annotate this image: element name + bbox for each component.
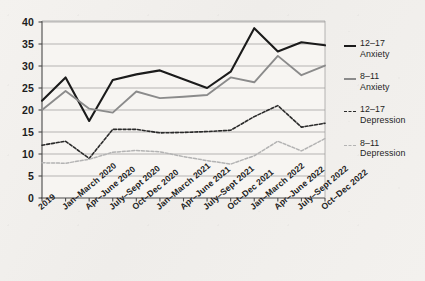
legend-item-1[interactable]: 8–11Anxiety (344, 71, 425, 92)
legend-label-age: 12–17 (360, 38, 385, 48)
legend-label: 12–17Depression (360, 104, 406, 125)
y-tick-label-10: 10 (8, 148, 34, 160)
legend-label-age: 8–11 (360, 71, 379, 81)
chart-legend: 12–17Anxiety8–11Anxiety12–17Depression8–… (344, 38, 425, 171)
y-tick-label-35: 35 (8, 38, 34, 50)
legend-line-icon (344, 141, 356, 151)
legend-label-condition: Anxiety (360, 49, 390, 60)
legend-label: 8–11Anxiety (360, 71, 390, 92)
legend-label: 12–17Anxiety (360, 38, 390, 59)
y-tick-label-30: 30 (8, 60, 34, 72)
y-tick-label-25: 25 (8, 82, 34, 94)
legend-label: 8–11Depression (360, 138, 406, 159)
line-chart: 4035302520151050 2019Jan–March 2020Apr–J… (0, 0, 425, 281)
legend-item-0[interactable]: 12–17Anxiety (344, 38, 425, 59)
legend-line-icon (344, 74, 356, 84)
legend-item-3[interactable]: 8–11Depression (344, 138, 425, 159)
legend-line-icon (344, 41, 356, 51)
legend-label-condition: Depression (360, 115, 406, 126)
y-tick-label-15: 15 (8, 126, 34, 138)
y-tick-label-0: 0 (8, 192, 34, 204)
legend-label-condition: Depression (360, 148, 406, 159)
y-tick-label-5: 5 (8, 170, 34, 182)
legend-line-icon (344, 107, 356, 117)
legend-label-condition: Anxiety (360, 82, 390, 93)
y-tick-label-40: 40 (8, 16, 34, 28)
legend-item-2[interactable]: 12–17Depression (344, 104, 425, 125)
y-tick-label-20: 20 (8, 104, 34, 116)
legend-label-age: 8–11 (360, 138, 379, 148)
legend-label-age: 12–17 (360, 104, 385, 114)
